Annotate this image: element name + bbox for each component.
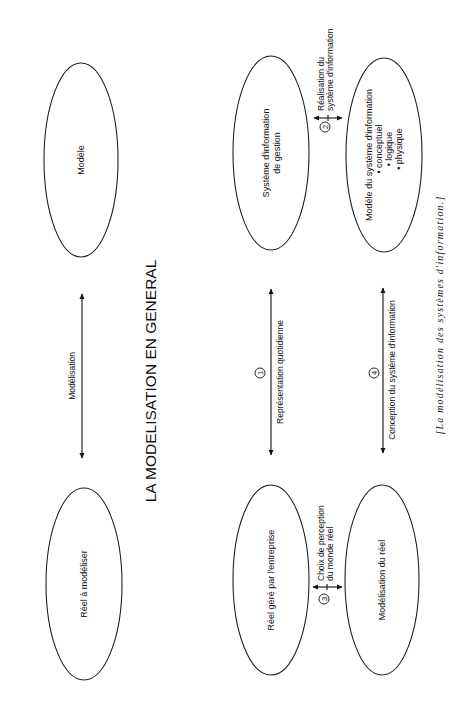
step-1-number: 1 <box>256 371 265 375</box>
arrow-modelisation-label: Modélisation <box>67 352 77 400</box>
figure-caption: [La modélisation des systèmes d'informat… <box>434 195 445 434</box>
step-2-number: 2 <box>321 125 330 129</box>
node-msi-label-line2: • conceptuel <box>374 124 384 173</box>
node-reel-a-modeliser-label: Réel à modéliser <box>79 550 89 618</box>
node-msi-label-line1: Modèle du système d'information <box>364 89 374 221</box>
node-msi-label-line4: • physique <box>394 128 404 170</box>
arrow-realisation-label-line2: système d'information <box>325 28 335 111</box>
modelisation-diagram: Modèle Réel à modéliser Système d'inform… <box>0 0 462 715</box>
step-4-number: 4 <box>370 371 379 375</box>
arrow-choix-label-line2: du monde réel <box>325 527 335 581</box>
node-reel-gere-label: Réel géré par l'entreprise <box>266 530 276 631</box>
node-sig-label-line2: de gestion <box>272 132 282 174</box>
step-3-number: 3 <box>320 597 329 601</box>
diagram-title: LA MODELISATION EN GENERAL <box>142 259 159 502</box>
node-modelisation-du-reel-label: Modélisation du réel <box>377 540 387 621</box>
node-systeme-information-gestion <box>233 56 309 250</box>
arrow-representation-label: Représentation quotidienne <box>275 320 285 424</box>
node-modele-label: Modèle <box>76 145 86 175</box>
node-sig-label-line1: Système d'information <box>261 109 271 198</box>
arrow-conception-label: Conception du système d'information <box>387 300 397 440</box>
node-msi-label-line3: • logique <box>384 132 394 167</box>
